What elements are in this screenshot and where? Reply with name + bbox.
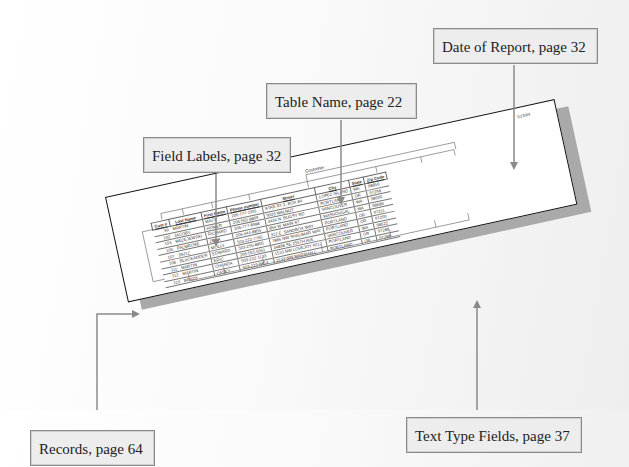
- callout-label: Text Type Fields, page 37: [415, 428, 570, 444]
- callout-records: Records, page 64: [30, 430, 155, 466]
- records-arrow: [97, 314, 138, 410]
- callout-label: Table Name, page 22: [275, 94, 402, 110]
- callout-field-labels: Field Labels, page 32: [143, 137, 291, 173]
- callout-label: Records, page 64: [39, 441, 143, 457]
- callout-label: Date of Report, page 32: [442, 39, 586, 55]
- callout-date-of-report: Date of Report, page 32: [433, 28, 598, 64]
- callout-label: Field Labels, page 32: [152, 148, 281, 164]
- callout-text-type-fields: Text Type Fields, page 37: [406, 417, 582, 453]
- callout-table-name: Table Name, page 22: [266, 83, 417, 119]
